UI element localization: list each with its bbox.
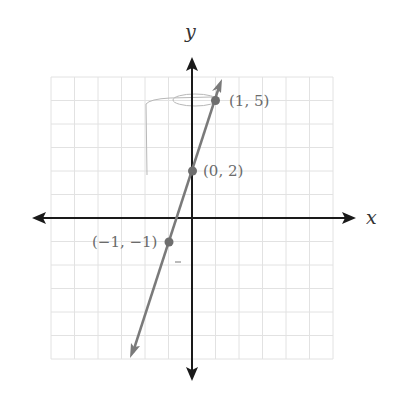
x-axis bbox=[32, 212, 356, 224]
point-neg1-neg1 bbox=[165, 238, 174, 247]
y-axis-label: y bbox=[184, 20, 196, 42]
point-label-0-2: (0, 2) bbox=[203, 162, 243, 180]
point-0-2 bbox=[188, 167, 197, 176]
point-1-5 bbox=[211, 96, 220, 105]
x-axis-label: x bbox=[366, 206, 377, 228]
point-label-neg1-neg1: (−1, −1) bbox=[92, 233, 157, 251]
point-label-1-5: (1, 5) bbox=[229, 92, 269, 110]
coordinate-plane: (1, 5) (0, 2) (−1, −1) x y bbox=[0, 0, 400, 399]
